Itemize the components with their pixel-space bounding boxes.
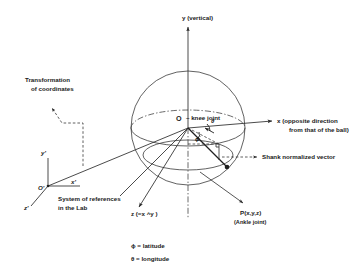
angle-legend: ϕ = latitude θ = longitude	[131, 242, 170, 262]
shank-vector-label: Shank normalized vector	[262, 153, 336, 160]
lab-caption-line1: System of references	[58, 195, 121, 202]
angle-phi-label: ϕ	[195, 136, 200, 142]
knee-joint-annotation: – knee joint	[186, 114, 220, 121]
axis-x	[188, 121, 272, 128]
frame-connector-line	[48, 128, 188, 186]
point-p-callout: P(x,y,z) (Ankle joint)	[200, 172, 266, 225]
lab-y-axis-label: y'	[40, 149, 46, 156]
legend-theta: θ = longitude	[131, 255, 170, 262]
axis-x-label-line2: from that of the ball)	[289, 126, 349, 133]
axis-z	[139, 128, 188, 207]
legend-phi: ϕ = latitude	[131, 242, 165, 249]
coordinate-system-diagram: ϕ θ O – knee joint y (vertical) x (oppos…	[0, 0, 351, 278]
lab-z-axis-label: z'	[23, 204, 29, 211]
transformation-label-line1: Transformation	[25, 76, 70, 83]
origin-label: O	[176, 114, 182, 123]
axis-z-extension	[120, 128, 188, 196]
angle-theta-arc	[205, 124, 214, 133]
lab-origin-label: O'	[38, 184, 45, 191]
axis-z-label: z (=x ^y )	[131, 210, 157, 217]
point-p-label: P(x,y,z)	[240, 209, 261, 216]
axis-y-label: y (vertical)	[182, 14, 213, 21]
lab-caption-line2: in the Lab	[58, 204, 87, 211]
lab-x-axis-label: x'	[70, 178, 76, 185]
lab-reference-frame: O' x' y' z' System of references in the …	[23, 149, 121, 211]
transformation-label-line2: of coordinates	[31, 85, 74, 92]
ankle-joint-label: (Ankle joint)	[234, 219, 266, 225]
figure-canvas: ϕ θ O – knee joint y (vertical) x (oppos…	[0, 0, 351, 278]
transformation-callout: Transformation of coordinates	[25, 76, 83, 166]
axis-x-label-line1: x (opposite direction	[277, 117, 338, 124]
